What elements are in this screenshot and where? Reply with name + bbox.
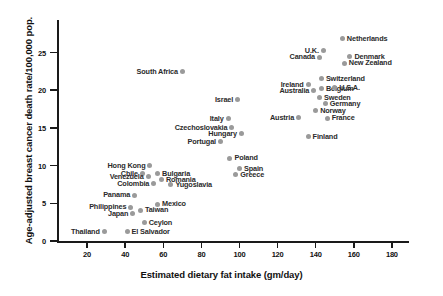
- x-tick-mark: [277, 241, 279, 248]
- data-point[interactable]: [332, 85, 337, 90]
- data-point[interactable]: [325, 116, 330, 121]
- data-point[interactable]: [313, 108, 318, 113]
- data-point[interactable]: [311, 88, 316, 93]
- data-point[interactable]: [342, 61, 347, 66]
- x-tick-mark: [239, 241, 241, 248]
- data-point-label: New Zealand: [349, 59, 392, 66]
- x-tick-label: 180: [381, 250, 403, 259]
- data-point-label: Netherlands: [347, 35, 388, 42]
- data-point[interactable]: [226, 116, 231, 121]
- x-tick-mark: [163, 241, 165, 248]
- data-point[interactable]: [159, 177, 164, 182]
- data-point[interactable]: [319, 86, 324, 91]
- x-tick-mark: [124, 241, 126, 248]
- data-point[interactable]: [233, 172, 238, 177]
- data-point[interactable]: [235, 97, 240, 102]
- data-point-label: U.S.A.: [339, 84, 360, 91]
- data-point[interactable]: [147, 163, 152, 168]
- x-tick-label: 20: [76, 250, 98, 259]
- x-tick-label: 120: [267, 250, 289, 259]
- data-point[interactable]: [321, 48, 326, 53]
- x-tick-label: 80: [190, 250, 212, 259]
- y-tick-mark: [50, 52, 57, 54]
- data-point-label: Yugoslavia: [175, 181, 212, 188]
- data-point-label: Ceylon: [149, 219, 172, 226]
- data-point-label: Panama: [103, 191, 130, 198]
- x-tick-mark: [353, 241, 355, 248]
- data-point[interactable]: [168, 182, 173, 187]
- data-point-label: France: [332, 114, 355, 121]
- data-point[interactable]: [340, 36, 345, 41]
- x-tick-mark: [315, 241, 317, 248]
- y-tick-mark: [50, 165, 57, 167]
- plot-area: 051015202520406080100120140160180 Nether…: [0, 0, 443, 296]
- data-point-label: South Africa: [137, 68, 178, 75]
- data-point[interactable]: [218, 139, 223, 144]
- data-point[interactable]: [155, 171, 160, 176]
- x-tick-mark: [391, 241, 393, 248]
- y-tick-mark: [50, 127, 57, 129]
- x-tick-label: 160: [343, 250, 365, 259]
- data-point-label: Australia: [279, 87, 309, 94]
- data-point-label: Canada: [290, 53, 315, 60]
- data-point-label: Greece: [240, 171, 264, 178]
- data-point[interactable]: [296, 115, 301, 120]
- data-point-label: Switzerland: [326, 75, 365, 82]
- y-tick-mark: [50, 240, 57, 242]
- data-point-label: Austria: [270, 114, 294, 121]
- data-point[interactable]: [102, 229, 107, 234]
- data-point-label: El Salvador: [132, 228, 170, 235]
- data-point-label: Israel: [215, 96, 233, 103]
- data-point-label: Italy: [210, 115, 224, 122]
- x-tick-label: 60: [152, 250, 174, 259]
- data-point-label: Finland: [313, 133, 338, 140]
- x-tick-mark: [86, 241, 88, 248]
- data-point[interactable]: [125, 229, 130, 234]
- x-tick-label: 140: [305, 250, 327, 259]
- y-axis-line: [57, 20, 59, 242]
- x-tick-mark: [201, 241, 203, 248]
- data-point[interactable]: [180, 69, 185, 74]
- data-point-label: Thailand: [71, 228, 100, 235]
- data-point-label: Poland: [234, 154, 257, 161]
- data-point[interactable]: [138, 208, 143, 213]
- data-point[interactable]: [146, 174, 151, 179]
- data-point[interactable]: [151, 181, 156, 186]
- data-point[interactable]: [227, 156, 232, 161]
- data-point[interactable]: [142, 220, 147, 225]
- y-tick-mark: [50, 203, 57, 205]
- data-point[interactable]: [317, 95, 322, 100]
- data-point[interactable]: [239, 131, 244, 136]
- data-point[interactable]: [128, 205, 133, 210]
- data-point[interactable]: [306, 134, 311, 139]
- data-point[interactable]: [317, 55, 322, 60]
- y-tick-mark: [50, 89, 57, 91]
- x-tick-label: 100: [229, 250, 251, 259]
- scatter-chart: 051015202520406080100120140160180 Nether…: [0, 0, 443, 296]
- y-axis-title: Age-adjusted breast cancer death rate/10…: [23, 11, 34, 251]
- x-axis-title: Estimated dietary fat intake (gm/day): [0, 269, 443, 280]
- data-point-label: Taiwan: [145, 206, 168, 213]
- x-axis-line: [57, 241, 409, 243]
- data-point[interactable]: [132, 193, 137, 198]
- data-point-label: Japan: [108, 210, 128, 217]
- data-point[interactable]: [319, 76, 324, 81]
- x-tick-label: 40: [114, 250, 136, 259]
- data-point-label: Portugal: [188, 138, 216, 145]
- data-point-label: Colombia: [117, 180, 149, 187]
- data-point[interactable]: [130, 211, 135, 216]
